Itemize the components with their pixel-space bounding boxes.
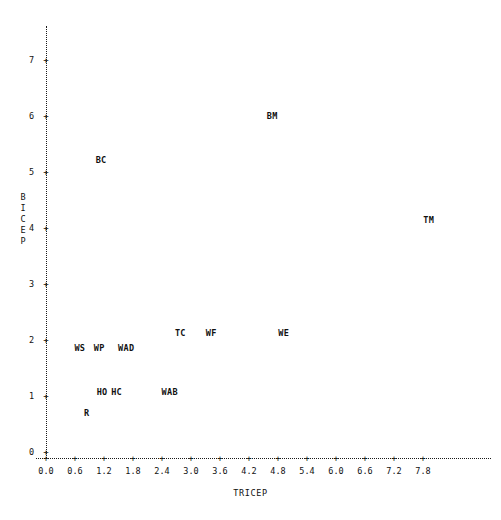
data-point-label: HO — [97, 387, 108, 397]
data-point-label: BC — [96, 155, 107, 165]
data-point-label: WE — [278, 328, 289, 338]
data-point-label: WAB — [162, 387, 178, 397]
data-point-label: HC — [111, 387, 122, 397]
plot-data-area: BMBCTMTCWFWEWSWPWADHOHCWABR — [0, 0, 501, 520]
data-point-label: WP — [94, 343, 105, 353]
data-point-label: WAD — [118, 343, 134, 353]
data-point-label: WF — [206, 328, 217, 338]
data-point-label: WS — [74, 343, 85, 353]
data-point-label: TC — [175, 328, 186, 338]
data-point-label: BM — [267, 111, 278, 121]
data-point-label: TM — [423, 215, 434, 225]
scatter-plot-figure: +0+1+2+3+4+5+6+7 BICEP +0.0+0.6+1.2+1.8+… — [0, 0, 501, 520]
data-point-label: R — [84, 408, 89, 418]
